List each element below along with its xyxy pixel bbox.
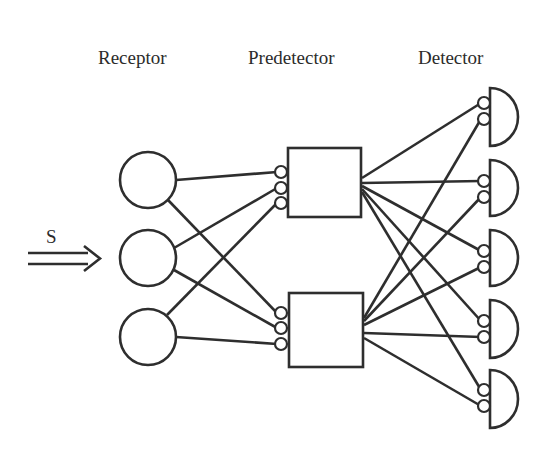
receptor-node-3: [120, 309, 176, 365]
detector-node-4: [478, 300, 518, 358]
input-arrow: S: [28, 226, 100, 271]
receptor-node-1: [120, 152, 176, 208]
detector-label: Detector: [418, 47, 484, 68]
detector-node-5: [478, 370, 518, 428]
predetector-label: Predetector: [248, 47, 335, 68]
synapse-icon: [275, 338, 287, 350]
receptor-label: Receptor: [98, 47, 167, 68]
detector-node-1: [478, 88, 518, 146]
predetector-node-1: [275, 148, 361, 217]
detector-node-3: [478, 230, 518, 286]
input-label: S: [46, 226, 57, 247]
predetector-node-2: [275, 293, 363, 367]
receptor-connections: [167, 172, 277, 344]
synapse-icon: [275, 307, 287, 319]
synapse-icon: [275, 182, 287, 194]
synapse-icon: [275, 322, 287, 334]
receptor-node-2: [120, 230, 176, 286]
synapse-icon: [275, 197, 287, 209]
neural-network-diagram: Receptor Predetector Detector S: [0, 0, 557, 450]
synapse-icon: [275, 166, 287, 178]
predetector-connections: [362, 103, 481, 406]
detector-node-2: [478, 160, 518, 216]
